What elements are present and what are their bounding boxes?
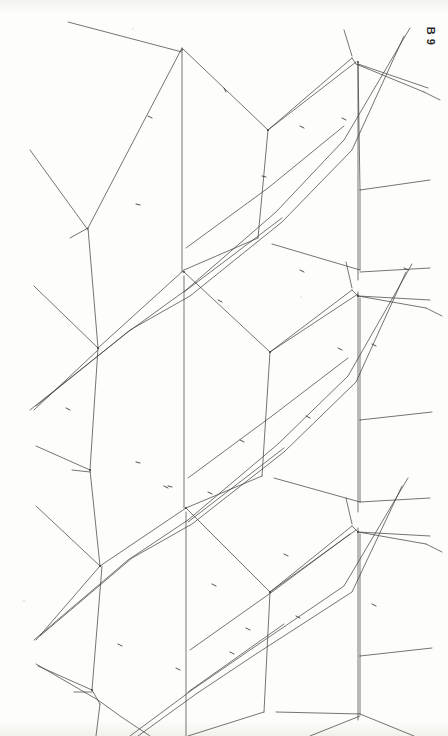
- hex-cell-bottom-left: [92, 508, 270, 736]
- outer-legs-bottom-left: [36, 506, 100, 736]
- diagonal-branch-1c: [186, 126, 344, 248]
- outer-legs-bottom-right: [310, 498, 442, 736]
- outer-legs-top-right: [344, 30, 440, 272]
- hex-cell-middle-left: [90, 272, 270, 566]
- lattice-junction-dots: [89, 49, 359, 691]
- diagonal-branch-2e: [188, 448, 284, 522]
- diagonal-line-1b: [36, 36, 404, 406]
- outer-legs-middle-left: [34, 286, 100, 640]
- outer-legs-top-left: [30, 22, 182, 410]
- hex-cell-bottom-right: [270, 526, 426, 714]
- paper-speck: [22, 600, 26, 602]
- overlay-diagonal-lines: [30, 28, 412, 736]
- figure-corner-label: B 9: [425, 23, 437, 49]
- paper-speck: [300, 296, 302, 298]
- diagonal-branch-3d: [188, 624, 284, 692]
- diagonal-branch-2d: [270, 294, 358, 352]
- diagonal-line-1: [30, 28, 410, 410]
- diagonal-branch-1d: [268, 62, 356, 130]
- diagonal-line-3b: [138, 486, 402, 736]
- figure-page: B 9: [0, 0, 448, 736]
- diagonal-branch-1: [184, 218, 282, 292]
- diagonal-line-2b: [40, 272, 406, 636]
- hex-cell-middle-right: [270, 290, 426, 502]
- hex-cell-top-right: [268, 58, 424, 270]
- diagonal-branch-3e: [270, 530, 356, 592]
- paper-speck: [132, 28, 134, 30]
- hexagonal-lattice-drawing: [0, 0, 448, 736]
